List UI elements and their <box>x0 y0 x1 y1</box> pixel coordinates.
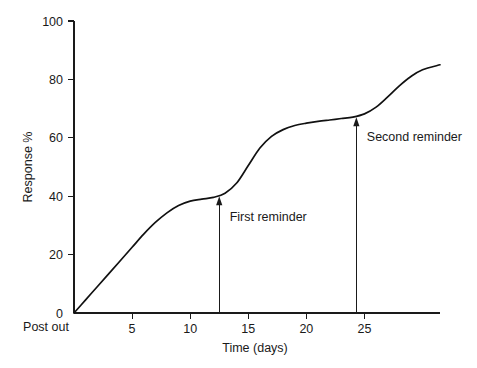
y-tick-label-60: 60 <box>49 131 63 145</box>
annotations-group: First reminderSecond reminder <box>216 117 462 313</box>
y-tick-label-20: 20 <box>49 248 63 262</box>
response-curve <box>74 65 440 313</box>
arrow-head-icon <box>353 117 359 126</box>
x-tick-label-20: 20 <box>299 322 313 336</box>
annotation-label: Second reminder <box>367 130 462 144</box>
arrow-head-icon <box>216 196 222 205</box>
x-tick-label-5: 5 <box>129 322 136 336</box>
annotation-label: First reminder <box>230 210 307 224</box>
y-axis-title: Response % <box>21 132 35 203</box>
y-tick-label-0: 0 <box>56 307 63 321</box>
annotation-second-reminder: Second reminder <box>353 117 462 313</box>
y-tick-label-40: 40 <box>49 190 63 204</box>
post-out-note: Post out <box>23 320 69 334</box>
y-axis-ticks: 020406080100 <box>42 15 74 321</box>
x-tick-label-25: 25 <box>358 322 372 336</box>
x-tick-label-15: 15 <box>241 322 255 336</box>
axes-group <box>74 21 440 313</box>
x-axis-title: Time (days) <box>222 341 288 355</box>
x-tick-label-10: 10 <box>183 322 197 336</box>
annotation-first-reminder: First reminder <box>216 196 307 313</box>
chart-canvas: 020406080100 510152025 Time (days) Respo… <box>0 0 477 368</box>
y-tick-label-100: 100 <box>42 15 63 29</box>
y-tick-label-80: 80 <box>49 73 63 87</box>
response-time-chart: 020406080100 510152025 Time (days) Respo… <box>0 0 477 368</box>
x-axis-ticks: 510152025 <box>129 313 372 336</box>
